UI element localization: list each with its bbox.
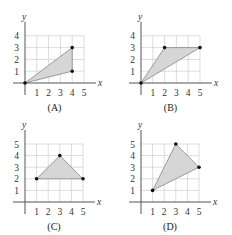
y-tick-label: 2 — [130, 55, 135, 65]
y-tick-label: 4 — [130, 31, 135, 41]
x-tick-label: 4 — [185, 207, 190, 217]
panel-caption: (D) — [163, 221, 177, 233]
panel-caption: (B) — [164, 102, 177, 114]
y-tick-label: 1 — [14, 67, 19, 77]
x-tick-label: 4 — [70, 88, 75, 98]
vertex-point — [70, 46, 74, 50]
x-axis-label: x — [213, 78, 219, 88]
x-tick-label: 3 — [173, 207, 178, 217]
y-axis-label: y — [21, 12, 27, 22]
y-tick-label: 5 — [14, 140, 19, 150]
x-tick-label: 3 — [174, 88, 179, 98]
y-tick-label: 3 — [130, 163, 135, 173]
panel-d: xy1234512345(D) — [129, 120, 218, 233]
shaded-triangle — [141, 48, 200, 83]
y-tick-label: 2 — [130, 174, 135, 184]
x-axis-label: x — [212, 197, 218, 207]
y-axis-label: y — [137, 12, 143, 22]
x-axis-label: x — [96, 197, 102, 207]
vertex-point — [58, 154, 62, 158]
x-tick-label: 5 — [81, 207, 86, 217]
y-axis-label: y — [137, 120, 143, 130]
vertex-point — [23, 81, 27, 85]
x-tick-label: 5 — [197, 207, 202, 217]
x-tick-label: 3 — [57, 207, 62, 217]
vertex-point — [70, 69, 74, 73]
x-tick-label: 2 — [46, 207, 51, 217]
y-tick-label: 3 — [130, 43, 135, 53]
y-axis-label: y — [21, 120, 27, 130]
y-tick-label: 1 — [130, 67, 135, 77]
vertex-point — [35, 177, 39, 181]
vertex-point — [139, 81, 143, 85]
x-tick-label: 1 — [34, 207, 39, 217]
x-tick-label: 2 — [162, 88, 167, 98]
vertex-point — [198, 46, 202, 50]
panel-a: xy123451234(A) — [13, 12, 103, 114]
vertex-point — [174, 142, 178, 146]
vertex-point — [81, 177, 85, 181]
y-tick-label: 4 — [14, 151, 19, 161]
x-tick-label: 1 — [150, 88, 155, 98]
y-tick-label: 5 — [130, 140, 135, 150]
y-tick-label: 4 — [14, 31, 19, 41]
y-tick-label: 2 — [14, 174, 19, 184]
panel-b: xy123451234(B) — [129, 12, 219, 114]
x-tick-label: 2 — [46, 88, 51, 98]
y-tick-label: 3 — [14, 163, 19, 173]
x-tick-label: 5 — [198, 88, 203, 98]
panel-caption: (A) — [48, 102, 62, 114]
x-tick-label: 1 — [150, 207, 155, 217]
panel-c: xy1234512345(C) — [13, 120, 102, 233]
y-tick-label: 1 — [130, 186, 135, 196]
vertex-point — [151, 189, 155, 193]
x-tick-label: 1 — [34, 88, 39, 98]
y-tick-label: 3 — [14, 43, 19, 53]
x-tick-label: 4 — [186, 88, 191, 98]
y-tick-label: 2 — [14, 55, 19, 65]
x-tick-label: 2 — [162, 207, 167, 217]
vertex-point — [163, 46, 167, 50]
y-tick-label: 1 — [14, 186, 19, 196]
panel-caption: (C) — [47, 221, 60, 233]
figure: xy123451234(A) xy123451234(B) xy12345123… — [0, 0, 232, 235]
x-tick-label: 4 — [69, 207, 74, 217]
x-tick-label: 5 — [82, 88, 87, 98]
vertex-point — [197, 165, 201, 169]
y-tick-label: 4 — [130, 151, 135, 161]
x-tick-label: 3 — [58, 88, 63, 98]
x-axis-label: x — [97, 78, 103, 88]
